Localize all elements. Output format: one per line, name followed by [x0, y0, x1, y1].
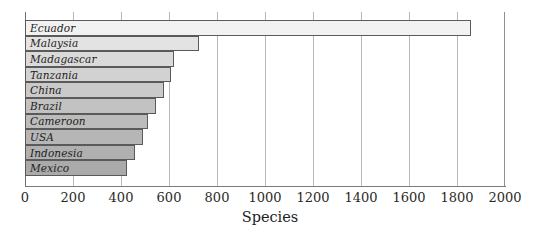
- bar-label-indonesia: Indonesia: [30, 147, 83, 158]
- bar-row: Mexico: [25, 160, 506, 176]
- bar-label-malaysia: Malaysia: [30, 38, 78, 49]
- species-bar-chart: EcuadorMalaysiaMadagascarTanzaniaChinaBr…: [0, 0, 544, 235]
- x-tick-1600: 1600: [392, 190, 425, 205]
- bar-label-tanzania: Tanzania: [30, 69, 78, 80]
- bar-label-usa: USA: [30, 132, 54, 143]
- bar-row: Cameroon: [25, 114, 506, 130]
- x-tick-1800: 1800: [440, 190, 473, 205]
- bar-series: EcuadorMalaysiaMadagascarTanzaniaChinaBr…: [25, 20, 506, 176]
- bar-label-china: China: [30, 85, 62, 96]
- x-tick-1200: 1200: [296, 190, 329, 205]
- bar-row: Ecuador: [25, 20, 506, 36]
- x-tick-400: 400: [109, 190, 134, 205]
- bar-label-brazil: Brazil: [30, 101, 62, 112]
- bar-ecuador: [25, 20, 471, 36]
- x-axis-line: [25, 186, 506, 187]
- bar-row: Malaysia: [25, 36, 506, 52]
- bar-row: China: [25, 82, 506, 98]
- x-tick-1000: 1000: [248, 190, 281, 205]
- bar-row: USA: [25, 129, 506, 145]
- bar-row: Tanzania: [25, 67, 506, 83]
- x-tick-600: 600: [157, 190, 182, 205]
- bar-label-ecuador: Ecuador: [30, 23, 75, 34]
- bar-row: Madagascar: [25, 51, 506, 67]
- x-tick-2000: 2000: [488, 190, 521, 205]
- x-axis-tick-labels: 0200400600800100012001400160018002000: [0, 190, 544, 210]
- bar-label-mexico: Mexico: [30, 163, 69, 174]
- x-tick-200: 200: [61, 190, 86, 205]
- bar-label-cameroon: Cameroon: [30, 116, 86, 127]
- x-tick-800: 800: [205, 190, 230, 205]
- bar-row: Brazil: [25, 98, 506, 114]
- bar-label-madagascar: Madagascar: [30, 54, 97, 65]
- x-tick-0: 0: [21, 190, 29, 205]
- x-axis-title: Species: [0, 209, 544, 225]
- x-axis-title-text: Species: [242, 209, 299, 225]
- x-tick-1400: 1400: [344, 190, 377, 205]
- bar-row: Indonesia: [25, 145, 506, 161]
